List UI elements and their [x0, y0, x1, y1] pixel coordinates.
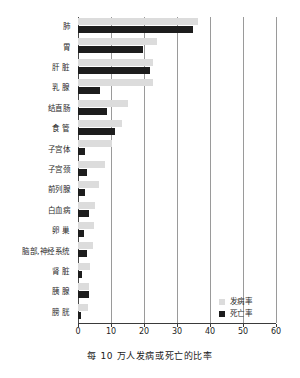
category-label: 肝 脏: [52, 64, 70, 72]
legend-swatch-mortality: [219, 311, 225, 317]
bar-row: [78, 180, 276, 200]
bar-incidence: [78, 202, 95, 209]
bar-mortality: [78, 210, 89, 217]
x-tick-label: 10: [106, 327, 116, 337]
x-tick-label: 40: [205, 327, 215, 337]
x-tick-label: 50: [238, 327, 248, 337]
x-axis-ticks: 0102030405060: [0, 324, 300, 338]
plot-area: [78, 17, 276, 323]
category-label: 肺: [63, 23, 71, 31]
bar-mortality: [78, 87, 100, 94]
x-tick-label: 0: [75, 327, 80, 337]
bar-row: [78, 58, 276, 78]
bar-row: [78, 99, 276, 119]
category-label: 胃: [63, 44, 71, 52]
bar-mortality: [78, 250, 87, 257]
legend-label: 死亡率: [230, 309, 252, 318]
bar-row: [78, 262, 276, 282]
legend-item: 死亡率: [219, 308, 285, 319]
category-label: 胰 腺: [52, 288, 70, 296]
bar-row: [78, 17, 276, 37]
bar-incidence: [78, 59, 153, 66]
bar-mortality: [78, 169, 87, 176]
bar-row: [78, 119, 276, 139]
category-label: 乳 腺: [52, 84, 70, 92]
bar-mortality: [78, 148, 85, 155]
bar-incidence: [78, 18, 198, 25]
bar-incidence: [78, 161, 105, 168]
chart-legend: 发病率死亡率: [219, 296, 285, 320]
bar-rows: [78, 17, 276, 323]
category-label: 结直肠: [48, 105, 71, 113]
legend-label: 发病率: [230, 297, 252, 306]
x-tick-label: 60: [271, 327, 281, 337]
bar-incidence: [78, 181, 99, 188]
bar-row: [78, 139, 276, 159]
x-axis-title: 每 10 万人发病或死亡的比率: [0, 350, 300, 362]
category-label: 食 管: [52, 125, 70, 133]
bar-mortality: [78, 230, 84, 237]
bar-mortality: [78, 67, 150, 74]
bar-mortality: [78, 271, 82, 278]
bar-row: [78, 201, 276, 221]
bar-incidence: [78, 222, 94, 229]
bar-incidence: [78, 38, 157, 45]
bar-chart: 肺胃肝 脏乳 腺结直肠食 管子宫体子宫颈前列腺白血病卵 巢脑部,神经系统肾 脏胰…: [0, 0, 300, 378]
category-label: 膀 胱: [52, 309, 70, 317]
bar-incidence: [78, 79, 153, 86]
category-label: 子宫颈: [48, 166, 71, 174]
bar-mortality: [78, 128, 115, 135]
category-label: 前列腺: [48, 186, 71, 194]
gridline-60: [276, 17, 277, 323]
x-tick-label: 20: [139, 327, 149, 337]
category-label: 卵 巢: [52, 227, 70, 235]
bar-mortality: [78, 291, 89, 298]
category-axis-labels: 肺胃肝 脏乳 腺结直肠食 管子宫体子宫颈前列腺白血病卵 巢脑部,神经系统肾 脏胰…: [0, 17, 74, 323]
category-label: 子宫体: [48, 146, 71, 154]
bar-row: [78, 241, 276, 261]
category-label: 肾 脏: [52, 268, 70, 276]
bar-row: [78, 160, 276, 180]
bar-mortality: [78, 46, 143, 53]
bar-incidence: [78, 140, 112, 147]
bar-row: [78, 221, 276, 241]
bar-incidence: [78, 242, 93, 249]
bar-mortality: [78, 312, 81, 319]
legend-item: 发病率: [219, 296, 285, 307]
x-tick-label: 30: [172, 327, 182, 337]
bar-incidence: [78, 304, 88, 311]
bar-mortality: [78, 189, 85, 196]
bar-mortality: [78, 26, 193, 33]
bar-incidence: [78, 283, 89, 290]
bar-row: [78, 78, 276, 98]
category-label: 白血病: [48, 207, 71, 215]
bar-row: [78, 37, 276, 57]
bar-incidence: [78, 263, 90, 270]
bar-mortality: [78, 108, 107, 115]
bar-incidence: [78, 120, 122, 127]
bar-incidence: [78, 100, 128, 107]
legend-swatch-incidence: [219, 299, 225, 305]
category-label: 脑部,神经系统: [22, 248, 70, 256]
